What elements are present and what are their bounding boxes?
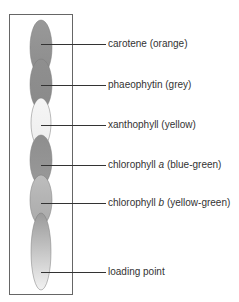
spot-loading-streak: [31, 213, 51, 290]
label-phaeophytin: phaeophytin (grey): [108, 79, 191, 91]
label-loading-point: loading point: [108, 266, 165, 278]
label-xanthophyll: xanthophyll (yellow): [108, 119, 196, 131]
label-chlorophyll-a: chlorophyll a (blue-green): [108, 159, 221, 171]
chromatogram-diagram: carotene (orange) phaeophytin (grey) xan…: [0, 0, 239, 302]
label-chlorophyll-b: chlorophyll b (yellow-green): [108, 197, 230, 209]
pigment-spots: [30, 20, 52, 290]
label-carotene: carotene (orange): [108, 38, 188, 50]
